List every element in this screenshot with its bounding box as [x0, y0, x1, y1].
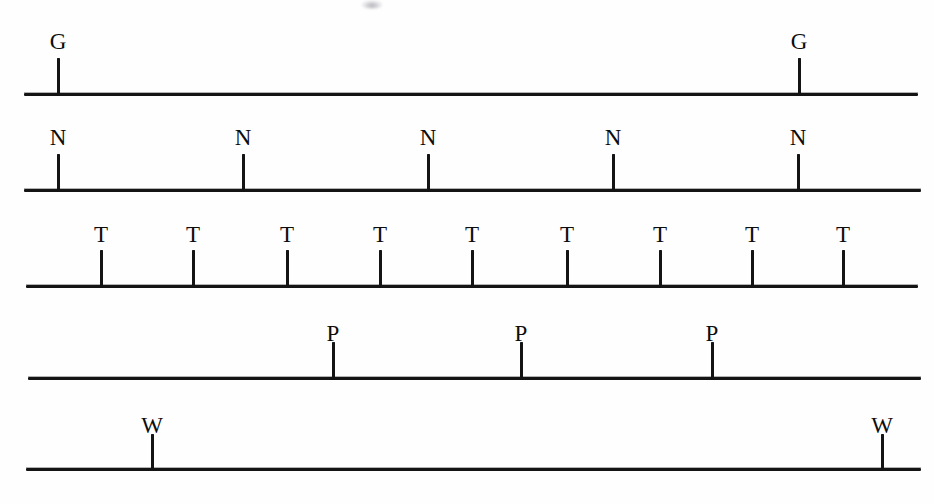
- tick-mark: [711, 342, 714, 380]
- tick-mark: [379, 250, 382, 288]
- axis-line: [28, 377, 921, 380]
- axis-line: [24, 189, 921, 192]
- mark-label: T: [94, 223, 108, 246]
- mark-label: P: [515, 322, 528, 345]
- tick-mark: [286, 250, 289, 288]
- tick-mark: [842, 250, 845, 288]
- mark-label: G: [50, 30, 67, 53]
- figure-canvas: GGNNNNNTTTTTTTTTPPPWW: [0, 0, 935, 504]
- tick-mark: [520, 342, 523, 380]
- tick-mark: [471, 250, 474, 288]
- tick-mark: [797, 154, 800, 192]
- mark-label: P: [327, 322, 340, 345]
- mark-label: T: [186, 223, 200, 246]
- mark-label: N: [235, 126, 252, 149]
- mark-label: N: [790, 126, 807, 149]
- mark-label: W: [871, 414, 893, 437]
- tick-mark: [192, 250, 195, 288]
- axis-line: [26, 468, 921, 471]
- tick-mark: [57, 154, 60, 192]
- tick-mark: [332, 342, 335, 380]
- tick-mark: [151, 434, 154, 471]
- tick-mark: [57, 58, 60, 96]
- mark-label: G: [791, 30, 808, 53]
- tick-mark: [612, 154, 615, 192]
- tick-mark: [881, 434, 884, 471]
- mark-label: T: [280, 223, 294, 246]
- tick-mark: [100, 250, 103, 288]
- mark-label: T: [745, 223, 759, 246]
- mark-label: T: [560, 223, 574, 246]
- scan-smudge-artifact: [361, 0, 383, 9]
- mark-label: P: [706, 322, 719, 345]
- tick-mark: [242, 154, 245, 192]
- tick-mark: [566, 250, 569, 288]
- mark-label: T: [836, 223, 850, 246]
- mark-label: N: [50, 126, 67, 149]
- tick-mark: [798, 58, 801, 96]
- mark-label: T: [465, 223, 479, 246]
- mark-label: N: [605, 126, 622, 149]
- axis-line: [24, 93, 918, 96]
- mark-label: W: [141, 414, 163, 437]
- tick-mark: [427, 154, 430, 192]
- mark-label: T: [653, 223, 667, 246]
- tick-mark: [659, 250, 662, 288]
- tick-mark: [751, 250, 754, 288]
- mark-label: T: [373, 223, 387, 246]
- mark-label: N: [420, 126, 437, 149]
